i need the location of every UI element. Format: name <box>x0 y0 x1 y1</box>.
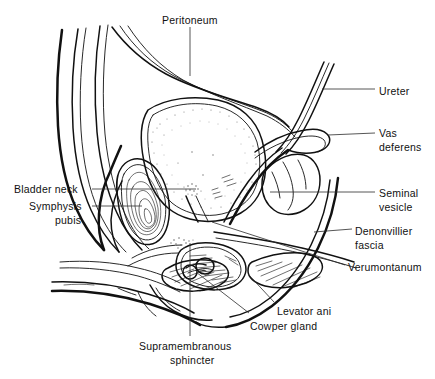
label-peritoneum: Peritoneum <box>162 13 218 28</box>
label-levator-ani: Levator ani <box>277 304 331 319</box>
label-vas-deferens-line1: Vas <box>379 126 397 141</box>
label-seminal-vesicle-line2: vesicle <box>379 200 413 215</box>
label-denonvillier-fascia-line1: Denonvillier <box>355 224 412 239</box>
leader-vas-deferens <box>328 133 375 135</box>
label-cowper-gland: Cowper gland <box>250 319 317 334</box>
ureter-structure <box>276 62 334 154</box>
label-verumontanum: Verumontanum <box>348 260 422 275</box>
leader-verumontanum <box>212 222 345 265</box>
ejaculatory-duct-marks <box>212 175 236 198</box>
label-symphysis-pubis-line2: pubis <box>55 213 81 228</box>
leader-levator-ani <box>248 274 274 302</box>
urethra-penis-structure <box>52 261 200 325</box>
levator-ani-right-hatching <box>256 261 320 288</box>
label-vas-deferens-line2: deferens <box>379 140 422 155</box>
label-supramembranous-sphincter-line2: sphincter <box>170 353 215 368</box>
label-bladder-neck: Bladder neck <box>14 182 78 197</box>
label-denonvillier-fascia-line2: fascia <box>355 238 384 253</box>
label-supramembranous-sphincter-line1: Supramembranous <box>139 339 231 354</box>
leader-cowper-gland <box>196 272 249 313</box>
peritoneum-structure <box>112 26 295 137</box>
label-ureter: Ureter <box>379 84 409 99</box>
label-seminal-vesicle-line1: Seminal <box>379 186 418 201</box>
anatomical-diagram: Peritoneum Ureter Vas deferens Bladder n… <box>0 0 435 379</box>
pelvic-floor-structure <box>128 245 212 320</box>
label-symphysis-pubis-line1: Symphysis <box>29 199 82 214</box>
bladder-neck-stipple <box>183 183 201 196</box>
vas-deferens-structure <box>224 129 330 224</box>
leader-denonvillier-fascia <box>314 229 352 232</box>
